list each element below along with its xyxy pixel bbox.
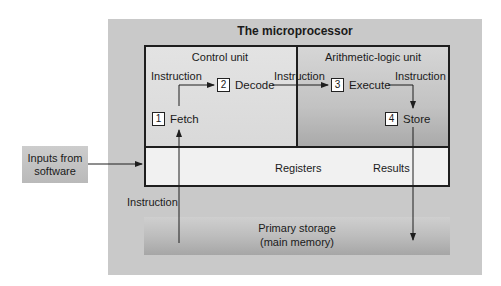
arrows-layer bbox=[0, 0, 501, 286]
arrow-fetch-to-decode bbox=[179, 85, 214, 106]
arrow-execute-to-store bbox=[388, 85, 413, 108]
